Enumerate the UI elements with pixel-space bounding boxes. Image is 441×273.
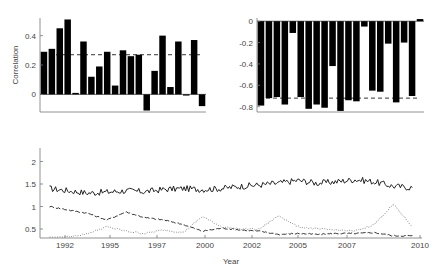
bar — [409, 21, 416, 96]
bar — [151, 71, 157, 95]
y-tick-label: 0 — [249, 17, 254, 26]
bar — [80, 42, 86, 95]
x-tick-label: 2002 — [243, 241, 261, 250]
y-tick-label: -0.8 — [239, 103, 253, 112]
bar — [274, 21, 281, 97]
bar — [329, 21, 336, 66]
bar — [417, 19, 424, 21]
bar — [313, 21, 320, 104]
left-correlation-bar-chart: 00.20.4Correlation — [11, 18, 206, 112]
bar — [337, 21, 344, 111]
bar — [136, 55, 142, 95]
bar — [297, 21, 304, 97]
bar — [401, 21, 408, 42]
bar — [393, 21, 400, 102]
bar — [191, 40, 197, 94]
x-tick-label: 2000 — [196, 241, 214, 250]
bar — [128, 56, 134, 94]
bar — [49, 49, 55, 95]
x-tick-label: 2010 — [411, 241, 429, 250]
bar — [369, 21, 376, 90]
y-tick-label: 1 — [32, 203, 37, 212]
y-tick-label: 0.5 — [25, 225, 37, 234]
x-tick-label: 2005 — [289, 241, 307, 250]
bar — [120, 50, 126, 94]
bar — [88, 77, 94, 95]
bar — [41, 52, 47, 95]
bar — [96, 66, 102, 94]
bar — [104, 52, 110, 95]
bar — [361, 21, 368, 26]
bar — [385, 21, 392, 43]
y-tick-label: -0.4 — [239, 60, 253, 69]
bar — [321, 21, 328, 108]
x-tick-label: 1992 — [56, 241, 74, 250]
right-correlation-bar-chart: 0-0.2-0.4-0.6-0.8 — [239, 17, 424, 112]
time-series-line-chart: 0.511.5219921995199720002002200520072010… — [25, 148, 430, 266]
bar — [112, 86, 118, 95]
bar — [290, 21, 297, 33]
x-axis-label: Year — [223, 257, 240, 266]
y-tick-label: 0 — [32, 90, 37, 99]
bar — [353, 21, 360, 101]
chart-canvas: 00.20.4Correlation0-0.2-0.4-0.6-0.80.511… — [0, 0, 441, 273]
bar — [64, 19, 70, 94]
bar — [377, 21, 384, 92]
series-solid-line — [50, 177, 413, 195]
bar — [199, 94, 205, 106]
y-tick-label: -0.2 — [239, 39, 253, 48]
y-axis-label: Correlation — [11, 45, 20, 84]
bar — [266, 21, 273, 98]
series-dotted-line — [50, 205, 413, 238]
y-tick-label: 0.4 — [25, 32, 37, 41]
y-tick-label: 1.5 — [25, 180, 37, 189]
y-tick-label: 0.2 — [25, 61, 37, 70]
bar — [345, 21, 352, 100]
bar — [57, 28, 63, 94]
bar — [143, 94, 149, 110]
bar — [167, 87, 173, 94]
x-tick-label: 1995 — [101, 241, 119, 250]
series-dashed-line — [50, 206, 413, 236]
x-tick-label: 1997 — [148, 241, 166, 250]
bar — [282, 21, 289, 104]
x-tick-label: 2007 — [338, 241, 356, 250]
bar — [305, 21, 312, 109]
y-tick-label: 2 — [32, 158, 37, 167]
bar — [258, 21, 265, 105]
bar — [175, 42, 181, 95]
y-tick-label: -0.6 — [239, 81, 253, 90]
bar — [159, 36, 165, 95]
